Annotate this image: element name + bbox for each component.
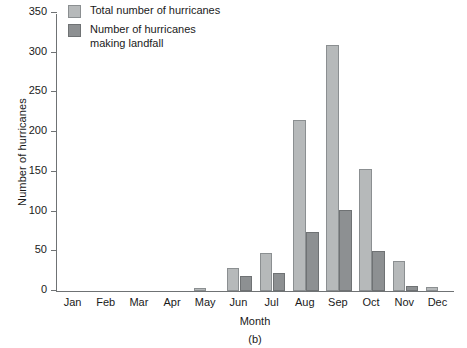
y-axis-tick-label: 300 <box>29 45 47 57</box>
x-axis-tick-label-feb: Feb <box>89 296 122 308</box>
x-axis-tick-label-oct: Oct <box>355 296 388 308</box>
bar-jun-landfall <box>240 276 253 291</box>
y-axis-tick-label: 150 <box>29 164 47 176</box>
legend-item: Number of hurricanes making landfall <box>68 23 220 50</box>
x-axis-tick-label-mar: Mar <box>122 296 155 308</box>
y-axis-tick-label: 200 <box>29 124 47 136</box>
legend-swatch-total <box>68 5 81 18</box>
y-axis-tick: 300 <box>51 52 57 53</box>
x-axis-tick-label-may: May <box>189 296 222 308</box>
x-axis-tick-label-jan: Jan <box>56 296 89 308</box>
y-axis-tick: 100 <box>51 211 57 212</box>
plot-area: 050100150200250300350 <box>56 14 454 292</box>
bar-jul-total <box>260 253 273 291</box>
y-axis-tick-label: 0 <box>41 283 47 295</box>
y-axis-tick-label: 100 <box>29 204 47 216</box>
bar-dec-total <box>426 287 439 291</box>
y-axis-title: Number of hurricanes <box>16 57 28 247</box>
legend-swatch-landfall <box>68 24 81 37</box>
bar-group <box>359 13 385 291</box>
chart-legend: Total number of hurricanesNumber of hurr… <box>68 4 220 55</box>
bar-oct-total <box>359 169 372 291</box>
x-axis-tick-label-sep: Sep <box>321 296 354 308</box>
bar-group <box>393 13 419 291</box>
bar-group <box>260 13 286 291</box>
bar-sep-landfall <box>339 210 352 291</box>
bar-oct-landfall <box>372 251 385 291</box>
x-axis-tick-label-jul: Jul <box>255 296 288 308</box>
bar-nov-landfall <box>406 286 419 291</box>
bar-group <box>326 13 352 291</box>
figure-caption: (b) <box>56 333 454 345</box>
y-axis-tick: 200 <box>51 131 57 132</box>
bar-jun-total <box>227 268 240 291</box>
bar-nov-total <box>393 261 406 291</box>
bar-group <box>293 13 319 291</box>
bar-group <box>227 13 253 291</box>
y-axis-tick-label: 350 <box>29 5 47 17</box>
x-axis-tick-label-dec: Dec <box>421 296 454 308</box>
x-axis-title: Month <box>56 315 454 327</box>
y-axis-tick: 50 <box>51 250 57 251</box>
bar-group <box>426 13 452 291</box>
bar-sep-total <box>326 45 339 291</box>
bar-may-total <box>194 288 207 291</box>
y-axis-tick-label: 250 <box>29 84 47 96</box>
bar-aug-landfall <box>306 232 319 291</box>
legend-label: Number of hurricanes making landfall <box>90 23 196 50</box>
x-axis-tick-label-apr: Apr <box>156 296 189 308</box>
y-axis-tick: 250 <box>51 91 57 92</box>
legend-label: Total number of hurricanes <box>90 4 220 18</box>
y-axis-tick: 0 <box>51 290 57 291</box>
x-axis-tick-label-nov: Nov <box>388 296 421 308</box>
y-axis-tick: 150 <box>51 171 57 172</box>
hurricane-bar-chart-figure: Number of hurricanes 0501001502002503003… <box>0 0 467 348</box>
x-axis-tick-label-jun: Jun <box>222 296 255 308</box>
legend-item: Total number of hurricanes <box>68 4 220 18</box>
bar-jul-landfall <box>273 273 286 291</box>
y-axis-tick-label: 50 <box>35 243 47 255</box>
bar-aug-total <box>293 120 306 291</box>
y-axis-tick: 350 <box>51 12 57 13</box>
x-axis-tick-label-aug: Aug <box>288 296 321 308</box>
